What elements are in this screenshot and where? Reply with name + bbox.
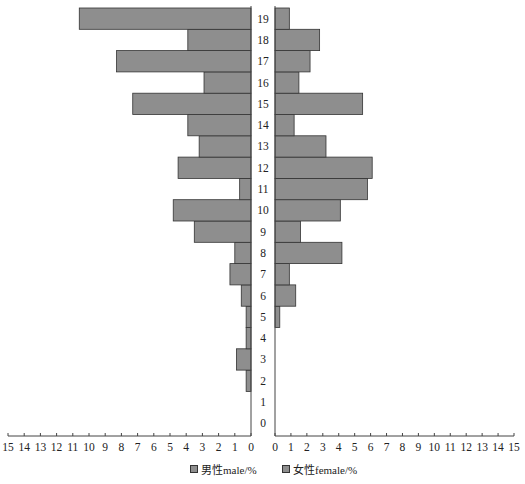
- age-label-16: 16: [257, 77, 269, 89]
- age-label-0: 0: [260, 417, 266, 429]
- age-label-17: 17: [257, 55, 269, 67]
- female-bar-age-7: [275, 264, 289, 285]
- age-label-12: 12: [257, 162, 269, 174]
- female-bar-age-19: [275, 8, 289, 29]
- legend-female: 女性female/%: [282, 461, 357, 477]
- age-label-3: 3: [260, 353, 266, 365]
- male-tick-label-8: 8: [119, 441, 125, 453]
- male-tick-label-9: 9: [102, 441, 108, 453]
- female-bar-age-14: [275, 115, 294, 136]
- male-tick-label-15: 15: [2, 441, 14, 453]
- female-tick-label-4: 4: [336, 441, 342, 453]
- male-bar-age-8: [235, 242, 251, 263]
- age-labels: 012345678910111213141516171819: [257, 13, 269, 430]
- male-bar-age-15: [133, 93, 251, 114]
- age-label-19: 19: [257, 13, 269, 25]
- male-bar-age-6: [241, 285, 251, 306]
- age-label-13: 13: [257, 140, 269, 152]
- age-label-1: 1: [260, 396, 266, 408]
- male-bar-age-5: [246, 306, 251, 327]
- male-tick-label-14: 14: [18, 441, 30, 453]
- female-tick-label-7: 7: [384, 441, 390, 453]
- age-label-2: 2: [260, 375, 266, 387]
- male-tick-label-13: 13: [35, 441, 47, 453]
- female-tick-label-15: 15: [508, 441, 520, 453]
- male-swatch-icon: [190, 465, 198, 473]
- age-label-7: 7: [260, 268, 266, 280]
- male-tick-label-4: 4: [183, 441, 189, 453]
- male-bar-age-4: [246, 328, 251, 349]
- female-bar-age-11: [275, 178, 367, 199]
- male-tick-label-0: 0: [248, 441, 254, 453]
- male-bars: [79, 8, 251, 391]
- male-bar-age-12: [178, 157, 251, 178]
- male-bar-age-11: [240, 178, 251, 199]
- female-bar-age-13: [275, 136, 326, 157]
- male-bar-age-14: [188, 115, 251, 136]
- population-pyramid-chart: 012345678910111213141516171819 151413121…: [0, 0, 525, 484]
- male-bar-age-17: [117, 51, 251, 72]
- female-swatch-icon: [282, 465, 290, 473]
- female-bar-age-15: [275, 93, 363, 114]
- male-bar-age-9: [194, 221, 251, 242]
- age-label-10: 10: [257, 204, 269, 216]
- male-tick-label-2: 2: [216, 441, 222, 453]
- female-bar-age-9: [275, 221, 300, 242]
- female-tick-label-10: 10: [429, 441, 441, 453]
- female-tick-label-6: 6: [368, 441, 374, 453]
- male-bar-age-13: [199, 136, 251, 157]
- female-tick-label-5: 5: [352, 441, 358, 453]
- female-tick-label-3: 3: [320, 441, 326, 453]
- male-bar-age-18: [188, 29, 251, 50]
- age-label-9: 9: [260, 226, 266, 238]
- age-label-5: 5: [260, 311, 266, 323]
- male-tick-label-1: 1: [232, 441, 238, 453]
- female-tick-label-14: 14: [492, 441, 504, 453]
- male-bar-age-7: [230, 264, 251, 285]
- female-tick-label-9: 9: [416, 441, 422, 453]
- legend-male: 男性male/%: [190, 461, 257, 477]
- age-label-4: 4: [260, 332, 266, 344]
- female-tick-label-11: 11: [445, 441, 456, 453]
- male-bar-age-2: [246, 370, 251, 391]
- age-label-15: 15: [257, 98, 269, 110]
- female-bars: [275, 8, 372, 328]
- legend-female-label: 女性female/%: [293, 461, 357, 477]
- female-tick-label-13: 13: [476, 441, 488, 453]
- legend-male-label: 男性male/%: [201, 461, 257, 477]
- male-bar-age-19: [79, 8, 251, 29]
- male-bar-age-3: [236, 349, 251, 370]
- female-bar-age-16: [275, 72, 299, 93]
- male-tick-label-6: 6: [151, 441, 157, 453]
- age-label-6: 6: [260, 290, 266, 302]
- female-bar-age-6: [275, 285, 296, 306]
- female-tick-label-8: 8: [400, 441, 406, 453]
- female-tick-label-12: 12: [460, 441, 472, 453]
- axes: [8, 6, 514, 436]
- age-label-14: 14: [257, 119, 269, 131]
- female-bar-age-10: [275, 200, 340, 221]
- female-bar-age-5: [275, 306, 280, 327]
- male-tick-label-5: 5: [167, 441, 173, 453]
- female-bar-age-8: [275, 242, 342, 263]
- female-tick-label-0: 0: [272, 441, 278, 453]
- male-bar-age-10: [173, 200, 251, 221]
- age-label-8: 8: [260, 247, 266, 259]
- age-label-18: 18: [257, 34, 269, 46]
- male-tick-label-10: 10: [83, 441, 95, 453]
- female-bar-age-18: [275, 29, 320, 50]
- female-bar-age-12: [275, 157, 372, 178]
- male-bar-age-16: [204, 72, 251, 93]
- female-tick-label-2: 2: [304, 441, 310, 453]
- male-tick-label-7: 7: [135, 441, 141, 453]
- age-label-11: 11: [257, 183, 268, 195]
- male-tick-label-3: 3: [200, 441, 206, 453]
- female-bar-age-17: [275, 51, 310, 72]
- male-tick-label-12: 12: [51, 441, 63, 453]
- female-tick-label-1: 1: [288, 441, 294, 453]
- male-tick-label-11: 11: [67, 441, 78, 453]
